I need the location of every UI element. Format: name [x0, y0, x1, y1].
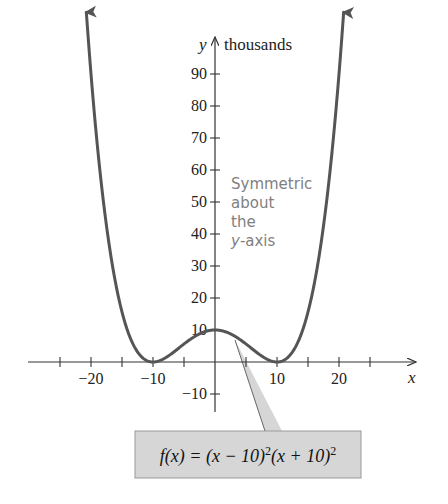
y-tick-label: 20	[191, 289, 207, 306]
function-label-mid: (x + 10)	[271, 446, 330, 467]
y-tick-label: 30	[191, 257, 207, 274]
exponent-2: 2	[330, 444, 336, 458]
y-ticks: −10102030405060708090	[182, 65, 220, 402]
x-tick-label: −10	[140, 370, 165, 387]
y-tick-label: −10	[182, 385, 207, 402]
function-label-lhs: f(x) = (x − 10)	[160, 446, 265, 467]
function-callout: f(x) = (x − 10)2(x + 10)2	[135, 431, 361, 478]
annotation-line: about	[231, 194, 274, 212]
y-axis-label: y	[197, 35, 207, 54]
annotation-line: y-axis	[230, 232, 276, 250]
y-tick-label: 70	[191, 129, 207, 146]
y-tick-label: 80	[191, 97, 207, 114]
function-label: f(x) = (x − 10)2(x + 10)2	[160, 444, 336, 467]
chart: −20−101020 −10102030405060708090 y thous…	[0, 0, 448, 504]
y-tick-label: 50	[191, 193, 207, 210]
annotation-line: Symmetric	[231, 175, 312, 193]
x-axis-label: x	[407, 368, 416, 387]
y-tick-label: 90	[191, 65, 207, 82]
x-tick-label: −20	[78, 370, 103, 387]
x-tick-label: 10	[269, 370, 285, 387]
y-tick-label: 60	[191, 161, 207, 178]
annotation-line: the	[231, 213, 256, 231]
y-tick-label: 40	[191, 225, 207, 242]
y-axis-units-label: thousands	[224, 35, 292, 54]
symmetry-annotation: Symmetricaboutthey-axis	[230, 175, 312, 250]
x-tick-label: 20	[331, 370, 347, 387]
